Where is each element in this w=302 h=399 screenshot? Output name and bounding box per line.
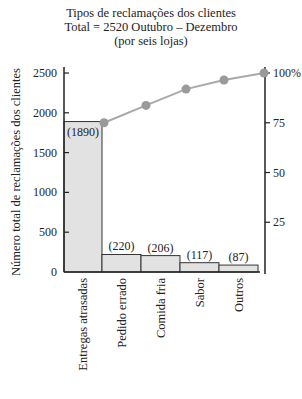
y-right-tick-label: 25 bbox=[273, 215, 285, 229]
bar-value-label: (220) bbox=[109, 239, 135, 253]
bar-2 bbox=[102, 254, 141, 272]
y-right-tick-label: 50 bbox=[273, 166, 285, 180]
bar-3 bbox=[141, 256, 180, 272]
cumulative-marker bbox=[142, 101, 151, 110]
y-axis-label: Número total de reclamações dos clientes bbox=[9, 68, 23, 276]
bar-value-label: (1890) bbox=[67, 125, 99, 139]
y-tick-label: 500 bbox=[39, 225, 57, 239]
bar-value-label: (117) bbox=[187, 248, 213, 262]
cumulative-marker bbox=[100, 118, 109, 127]
category-label: Entregas atrasadas bbox=[76, 278, 90, 371]
category-label: Sabor bbox=[193, 277, 207, 307]
y-tick-label: 2500 bbox=[33, 66, 57, 80]
pareto-chart: (1890)Entregas atrasadas(220)Pedido erra… bbox=[0, 0, 302, 399]
bar-value-label: (87) bbox=[229, 250, 249, 264]
bar-1 bbox=[64, 122, 102, 272]
y-tick-label: 1500 bbox=[33, 146, 57, 160]
y-tick-label: 2000 bbox=[33, 106, 57, 120]
bar-value-label: (206) bbox=[148, 241, 174, 255]
bar-5 bbox=[219, 265, 258, 272]
y-right-tick-label: 75 bbox=[273, 116, 285, 130]
category-label: Pedido errado bbox=[115, 278, 129, 348]
y-tick-label: 0 bbox=[51, 265, 57, 279]
cumulative-line bbox=[104, 73, 264, 123]
category-label: Outros bbox=[232, 278, 246, 312]
bar-4 bbox=[180, 263, 219, 272]
y-tick-label: 1000 bbox=[33, 185, 57, 199]
cumulative-marker bbox=[182, 85, 191, 94]
cumulative-marker bbox=[260, 69, 269, 78]
category-label: Comida fria bbox=[154, 278, 168, 339]
y-right-tick-label: 100% bbox=[273, 66, 301, 80]
cumulative-marker bbox=[220, 75, 229, 84]
